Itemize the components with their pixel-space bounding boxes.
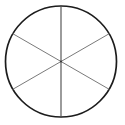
circle-sectors-diagram <box>0 0 125 125</box>
center-intersection-dot <box>60 61 62 63</box>
figure-canvas <box>0 0 125 125</box>
